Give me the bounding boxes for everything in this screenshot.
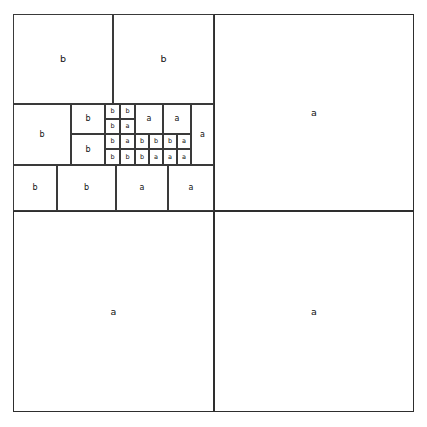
dissection-cell: a	[149, 149, 163, 165]
cell-label: a	[182, 138, 186, 145]
cell-label: a	[175, 115, 180, 123]
dissection-cell: a	[177, 134, 191, 149]
cell-label: a	[111, 307, 117, 317]
dissection-cell: b	[120, 104, 135, 119]
dissection-cell: a	[13, 211, 214, 412]
dissection-cell: b	[163, 134, 177, 149]
cell-label: b	[125, 154, 129, 161]
dissection-cell: b	[13, 104, 71, 165]
dissection-cell: a	[214, 14, 414, 211]
dissection-cell: b	[135, 149, 149, 165]
cell-label: b	[154, 138, 158, 145]
cell-label: b	[60, 54, 66, 64]
dissection-cell: a	[163, 104, 191, 134]
dissection-cell: a	[120, 119, 135, 134]
cell-label: a	[140, 184, 145, 192]
dissection-cell: a	[214, 211, 414, 412]
cell-label: a	[200, 131, 205, 139]
dissection-cell: b	[13, 165, 57, 211]
dissection-cell: b	[71, 104, 105, 134]
dissection-cell: b	[105, 149, 120, 165]
cell-label: b	[140, 138, 144, 145]
cell-label: a	[147, 115, 152, 123]
cell-label: b	[140, 154, 144, 161]
dissection-cell: b	[120, 149, 135, 165]
dissection-cell: a	[120, 134, 135, 149]
dissection-cell: b	[71, 134, 105, 165]
dissection-cell: a	[163, 149, 177, 165]
cell-label: b	[110, 123, 114, 130]
cell-label: b	[125, 108, 129, 115]
cell-label: b	[110, 138, 114, 145]
cell-label: a	[126, 138, 130, 145]
dissection-cell: a	[191, 104, 214, 165]
cell-label: a	[168, 154, 172, 161]
cell-label: a	[311, 307, 317, 317]
cell-label: a	[126, 123, 130, 130]
dissection-cell: b	[13, 14, 113, 104]
cell-label: b	[32, 184, 37, 192]
cell-label: b	[168, 138, 172, 145]
dissection-cell: b	[113, 14, 214, 104]
squared-square-figure: bbabbbbbbababbaabbbabaaaabbaaaa	[0, 0, 427, 427]
dissection-canvas: bbabbbbbbababbaabbbabaaaabbaaaa	[13, 14, 414, 412]
dissection-cell: a	[135, 104, 163, 134]
dissection-cell: b	[105, 119, 120, 134]
dissection-cell: a	[177, 149, 191, 165]
cell-label: b	[39, 131, 44, 139]
cell-label: a	[311, 108, 317, 118]
dissection-cell: b	[149, 134, 163, 149]
cell-label: a	[154, 154, 158, 161]
cell-label: a	[189, 184, 194, 192]
dissection-cell: b	[105, 134, 120, 149]
cell-label: b	[160, 54, 166, 64]
cell-label: b	[110, 154, 114, 161]
dissection-cell: b	[135, 134, 149, 149]
dissection-cell: a	[168, 165, 214, 211]
dissection-cell: b	[105, 104, 120, 119]
cell-label: b	[110, 108, 114, 115]
cell-label: b	[85, 115, 90, 123]
cell-label: b	[84, 184, 89, 192]
dissection-cell: a	[116, 165, 168, 211]
dissection-cell: b	[57, 165, 116, 211]
cell-label: b	[85, 146, 90, 154]
cell-label: a	[182, 154, 186, 161]
